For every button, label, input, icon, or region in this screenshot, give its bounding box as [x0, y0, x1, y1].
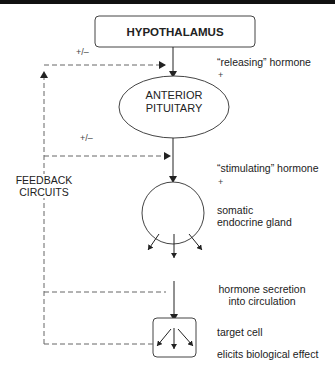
gland-label-line2: endocrine gland: [217, 216, 292, 228]
feedback-circuits-label: FEEDBACK CIRCUITS: [4, 174, 84, 198]
feedback-label-line2: CIRCUITS: [4, 186, 84, 198]
secretion-label-line2: into circulation: [217, 295, 307, 307]
gland-label-line1: somatic: [217, 204, 292, 216]
effect-label: elicits biological effect: [217, 348, 318, 360]
anterior-pituitary-line2: PITUITARY: [119, 102, 229, 115]
stimulating-hormone-label: “stimulating” hormone: [217, 162, 319, 174]
releasing-sign: +: [218, 70, 223, 80]
anterior-pituitary-label: ANTERIOR PITUITARY: [119, 89, 229, 115]
secretion-label: hormone secretion into circulation: [217, 283, 307, 307]
hypothalamus-label: HYPOTHALAMUS: [95, 16, 255, 47]
target-cell-label: target cell: [217, 326, 263, 338]
feedback-sign-top: +/–: [76, 47, 89, 57]
anterior-pituitary-line1: ANTERIOR: [119, 89, 229, 102]
endocrine-feedback-diagram: HYPOTHALAMUS ANTERIOR PITUITARY +/– +/– …: [0, 0, 335, 375]
gland-label: somatic endocrine gland: [217, 204, 292, 228]
feedback-sign-mid: +/–: [80, 133, 93, 143]
secretion-label-line1: hormone secretion: [217, 283, 307, 295]
feedback-label-line1: FEEDBACK: [4, 174, 84, 186]
stimulating-sign: +: [218, 177, 223, 187]
somatic-gland-circle: [142, 182, 204, 244]
releasing-hormone-label: “releasing” hormone: [217, 56, 311, 68]
